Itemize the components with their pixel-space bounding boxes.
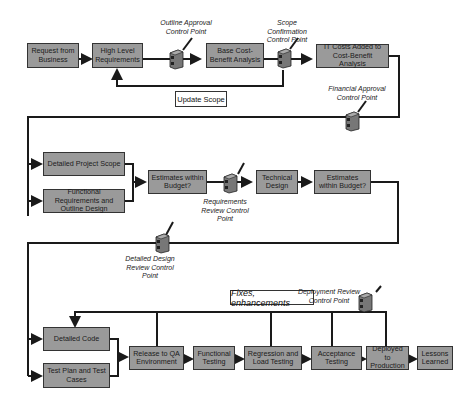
box-regression-load-testing: Regression and Load Testing bbox=[244, 346, 302, 370]
line-merge-2 bbox=[110, 339, 118, 376]
antenna-deployment bbox=[376, 286, 381, 292]
label-deployment-review: Deployment Review Control Point bbox=[297, 288, 361, 305]
process-diagram: Request from Business High Level Require… bbox=[0, 0, 475, 406]
note-update-scope: Update Scope bbox=[175, 91, 227, 107]
box-it-costs-added: IT Costs Added to Cost-Benefit Analysis bbox=[316, 44, 389, 68]
label-requirements-review: Requirements Review Control Point bbox=[193, 198, 257, 224]
line-merge-1 bbox=[125, 164, 133, 201]
label-financial-approval: Financial Approval Control Point bbox=[327, 85, 387, 102]
box-base-cost-benefit: Base Cost-Benefit Analysis bbox=[206, 43, 264, 68]
box-functional-requirements: Functional Requirements and Outline Desi… bbox=[43, 189, 125, 213]
server-icon-deployment bbox=[357, 291, 373, 313]
label-scope-confirmation: Scope Confirmation Control Point bbox=[257, 19, 317, 45]
box-high-level-requirements: High Level Requirements bbox=[92, 43, 143, 68]
box-estimates-within-budget-2: Estimates within Budget? bbox=[314, 170, 371, 194]
server-icon-detailed-design bbox=[154, 232, 170, 254]
server-icon-scope bbox=[276, 47, 292, 69]
box-request-from-business: Request from Business bbox=[27, 43, 79, 68]
box-detailed-project-scope: Detailed Project Scope bbox=[43, 152, 125, 176]
box-release-to-qa: Release to QA Environment bbox=[129, 346, 184, 370]
arrow-fixes-feedback bbox=[75, 312, 386, 347]
antenna-requirements bbox=[238, 163, 244, 174]
server-icon-requirements bbox=[222, 172, 238, 194]
box-lessons-learned: Lessons Learned bbox=[417, 346, 453, 370]
box-acceptance-testing: Acceptance Testing bbox=[311, 346, 362, 370]
box-detailed-code: Detailed Code bbox=[43, 327, 110, 351]
server-icon-financial bbox=[344, 110, 360, 132]
label-detailed-design-review: Detailed Design Review Control Point bbox=[120, 255, 180, 281]
box-functional-testing: Functional Testing bbox=[193, 346, 235, 370]
box-estimates-within-budget-1: Estimates within Budget? bbox=[148, 170, 207, 194]
box-deployed-to-production: Deployed to Production bbox=[366, 346, 409, 370]
arrow-update-scope-loop bbox=[117, 70, 283, 86]
antenna-outline bbox=[183, 38, 192, 50]
label-outline-approval: Outline Approval Control Point bbox=[160, 19, 212, 36]
server-icon-outline bbox=[168, 48, 184, 70]
box-technical-design: Technical Design bbox=[256, 170, 298, 194]
box-test-plan: Test Plan and Test Cases bbox=[43, 363, 110, 388]
